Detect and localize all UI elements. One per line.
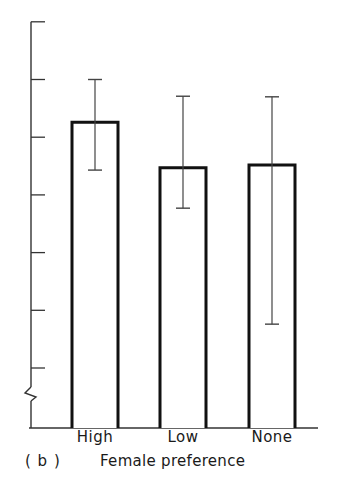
bar-chart bbox=[0, 0, 341, 497]
category-label-high: High bbox=[77, 428, 113, 446]
axis-break-icon bbox=[25, 387, 36, 401]
category-label-low: Low bbox=[167, 428, 198, 446]
y-axis bbox=[25, 22, 45, 428]
x-axis-title: Female preference bbox=[100, 452, 245, 470]
category-label-none: None bbox=[251, 428, 292, 446]
panel-label: ( b ) bbox=[25, 452, 61, 470]
